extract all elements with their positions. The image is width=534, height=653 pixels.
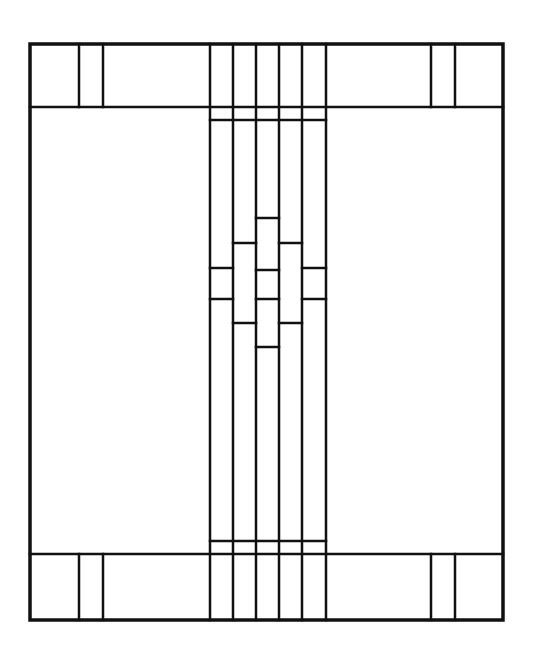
window-design — [0, 0, 534, 653]
outer-frame — [30, 44, 503, 620]
